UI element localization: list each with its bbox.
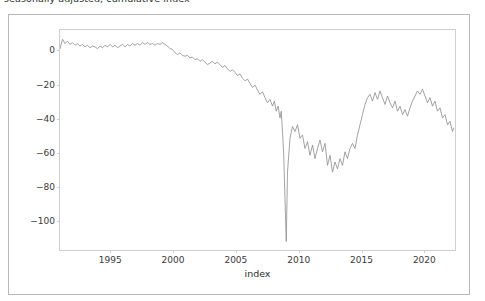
matplotlib-figure: 0−20−40−60−80−10019952000200520102015202… [9,15,471,296]
x-tick-mark [299,250,300,253]
y-tick-mark [57,85,60,86]
y-tick-mark [57,187,60,188]
y-tick-label: −80 [36,182,55,192]
y-tick-mark [57,221,60,222]
x-tick-label: 2015 [350,255,373,265]
y-tick-label: −20 [36,80,55,90]
figure-title: seasonally adjusted, cumulative index [4,0,190,4]
y-tick-label: −100 [30,216,55,226]
x-tick-mark [236,250,237,253]
y-tick-mark [57,119,60,120]
x-tick-mark [424,250,425,253]
x-tick-label: 2020 [413,255,436,265]
x-tick-label: 2000 [162,255,185,265]
y-tick-mark [57,50,60,51]
x-axis-label: index [245,268,271,279]
y-tick-label: 0 [49,45,55,55]
x-tick-label: 2005 [224,255,247,265]
x-tick-mark [110,250,111,253]
x-tick-mark [173,250,174,253]
y-tick-label: −60 [36,148,55,158]
y-tick-label: −40 [36,114,55,124]
figure-title-strip: seasonally adjusted, cumulative index [0,0,485,6]
y-tick-mark [57,153,60,154]
x-tick-label: 2010 [287,255,310,265]
figure-card: 0−20−40−60−80−10019952000200520102015202… [8,14,470,295]
x-tick-label: 1995 [99,255,122,265]
x-tick-mark [362,250,363,253]
data-series-0 [60,39,454,241]
plot-line-svg [60,30,455,250]
plot-axes: 0−20−40−60−80−10019952000200520102015202… [59,29,456,251]
